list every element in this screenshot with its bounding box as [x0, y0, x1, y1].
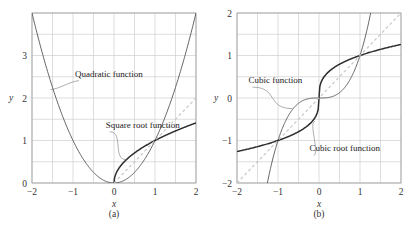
annotation-label: Cubic root function — [310, 143, 381, 153]
grid — [32, 13, 196, 183]
y-axis-label: y — [8, 93, 14, 103]
annotation-leader — [110, 132, 127, 160]
panel-a: −2−10120123xy(a)Quadratic functionSquare… — [8, 13, 199, 220]
x-tick-label: −1 — [273, 187, 283, 197]
x-tick-label: −2 — [27, 187, 37, 197]
x-tick-label: −1 — [68, 187, 78, 197]
y-tick-label: 0 — [227, 94, 232, 104]
annotation-label: Quadratic function — [75, 69, 143, 79]
annotation-label: Cubic function — [248, 75, 302, 85]
annotation-leader — [50, 81, 79, 90]
x-axis-label: x — [316, 199, 322, 209]
panel-b: −2−1012−2−1012xy(b)Cubic functionCubic r… — [213, 9, 404, 221]
x-axis-label: x — [111, 199, 117, 209]
x-tick-label: 1 — [358, 187, 363, 197]
y-tick-label: 1 — [22, 136, 27, 146]
y-tick-label: 1 — [227, 51, 232, 61]
y-axis-label: y — [213, 93, 219, 103]
y-tick-label: 0 — [22, 179, 27, 189]
y-tick-label: −2 — [222, 179, 232, 189]
panel-label: (a) — [109, 209, 120, 220]
y-tick-label: 3 — [22, 51, 27, 61]
x-tick-label: 2 — [194, 187, 199, 197]
x-tick-label: 1 — [153, 187, 158, 197]
y-tick-label: 2 — [22, 94, 27, 104]
x-tick-label: 2 — [399, 187, 404, 197]
x-tick-label: −2 — [232, 187, 242, 197]
figure: −2−10120123xy(a)Quadratic functionSquare… — [0, 0, 407, 230]
annotation-label: Square root function — [106, 120, 180, 130]
x-tick-label: 0 — [112, 187, 117, 197]
y-tick-label: 2 — [227, 9, 232, 19]
panel-label: (b) — [313, 209, 324, 220]
y-tick-label: −1 — [222, 136, 232, 146]
x-tick-label: 0 — [317, 187, 322, 197]
